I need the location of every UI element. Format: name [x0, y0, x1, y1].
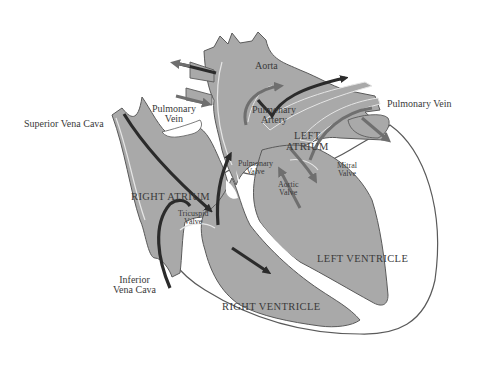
label-line: Valve [337, 170, 357, 178]
label-pulmonary-valve: Pulmonary Valve [238, 160, 273, 177]
pulmonary-artery-left-arrowhead [174, 63, 190, 66]
label-line: Valve [238, 168, 273, 176]
label-pulmonary-vein-right: Pulmonary Vein [387, 99, 452, 109]
label-tricuspid-valve: Tricuspid Valve [178, 210, 208, 227]
label-left-ventricle: LEFT VENTRICLE [317, 254, 408, 265]
label-inferior-vena-cava: Inferior Vena Cava [113, 275, 156, 295]
label-pulmonary-artery: Pulmonary Artery [252, 105, 296, 125]
label-line: Artery [252, 115, 296, 125]
label-pulmonary-vein-left: Pulmonary Vein [152, 104, 196, 124]
heart-diagram [0, 0, 484, 379]
label-mitral-valve: Mitral Valve [337, 162, 357, 179]
label-aorta: Aorta [255, 61, 278, 71]
label-superior-vena-cava: Superior Vena Cava [24, 119, 104, 129]
label-line: Valve [278, 189, 298, 197]
label-line: Valve [178, 218, 208, 226]
label-left-atrium: LEFT ATRIUM [286, 131, 329, 152]
label-aortic-valve: Aortic Valve [278, 181, 298, 198]
label-line: Vena Cava [113, 285, 156, 295]
label-right-atrium: RIGHT ATRIUM [131, 192, 210, 203]
label-line: ATRIUM [286, 142, 329, 153]
label-line: Vein [152, 114, 196, 124]
label-line: LEFT [286, 131, 329, 142]
label-right-ventricle: RIGHT VENTRICLE [222, 302, 321, 313]
